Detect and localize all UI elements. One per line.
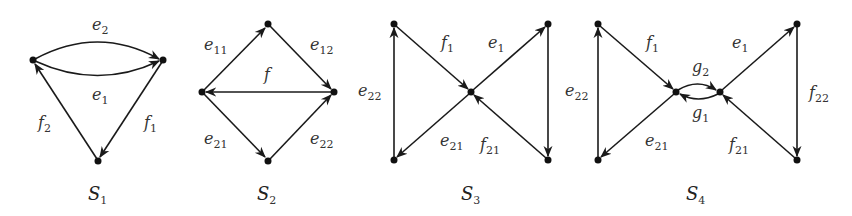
label-e22-left: e22 bbox=[358, 81, 381, 103]
label-e1: e1 bbox=[488, 33, 504, 55]
label-e22-right: e22 bbox=[565, 81, 588, 103]
label-f21: f21 bbox=[728, 135, 749, 157]
diagram-s1: e2 e1 f1 f2 S1 bbox=[30, 15, 167, 207]
label-f21: f21 bbox=[479, 135, 500, 157]
node bbox=[199, 89, 206, 96]
caption-s3: S3 bbox=[461, 183, 480, 207]
node bbox=[794, 21, 801, 28]
edge-f1 bbox=[396, 26, 468, 89]
graph-figure: e2 e1 f1 f2 S1 e11 e12 f e21 e22 S2 bbox=[0, 0, 852, 216]
edge-f2 bbox=[35, 64, 97, 159]
node bbox=[545, 157, 552, 164]
diagram-s4: f1 g2 g1 e1 f22 f21 e21 S4 bbox=[595, 21, 829, 208]
diagram-s3: f1 e1 e22 f21 e21 e22 S3 bbox=[358, 21, 588, 208]
diagram-s2: e11 e12 f e21 e22 S2 bbox=[199, 21, 338, 208]
label-f22: f22 bbox=[808, 83, 829, 105]
edge-f1 bbox=[600, 26, 673, 89]
edge-e1 bbox=[35, 61, 159, 76]
label-f1: f1 bbox=[440, 33, 454, 55]
node bbox=[160, 57, 167, 64]
edge-e2 bbox=[35, 42, 159, 59]
label-e1: e1 bbox=[92, 85, 108, 107]
label-e21: e21 bbox=[204, 129, 227, 151]
node bbox=[265, 21, 272, 28]
label-e12: e12 bbox=[310, 35, 333, 57]
label-e21: e21 bbox=[645, 131, 668, 153]
node bbox=[391, 21, 398, 28]
edge-e12 bbox=[270, 26, 331, 89]
node bbox=[331, 89, 338, 96]
label-f: f bbox=[263, 65, 273, 84]
node bbox=[30, 57, 37, 64]
edge-f1 bbox=[100, 62, 162, 157]
node bbox=[595, 21, 602, 28]
node bbox=[595, 157, 602, 164]
label-f2: f2 bbox=[37, 113, 51, 135]
label-e1: e1 bbox=[732, 33, 748, 55]
edge-e1 bbox=[473, 27, 545, 90]
label-f1: f1 bbox=[143, 113, 157, 135]
node bbox=[95, 158, 102, 165]
caption-s1: S1 bbox=[88, 183, 107, 207]
label-e22: e22 bbox=[310, 129, 333, 151]
edge-g2 bbox=[678, 84, 716, 90]
node bbox=[673, 89, 680, 96]
node bbox=[391, 157, 398, 164]
label-e2: e2 bbox=[92, 15, 108, 37]
label-e11: e11 bbox=[204, 35, 227, 57]
node bbox=[265, 158, 272, 165]
node bbox=[794, 157, 801, 164]
label-g1: g1 bbox=[692, 103, 709, 125]
label-f1: f1 bbox=[645, 33, 659, 55]
node bbox=[468, 89, 475, 96]
edge-g1 bbox=[680, 94, 718, 99]
node bbox=[717, 89, 724, 96]
caption-s2: S2 bbox=[257, 183, 276, 207]
node bbox=[545, 21, 552, 28]
label-e21: e21 bbox=[440, 131, 463, 153]
caption-s4: S4 bbox=[686, 183, 705, 207]
label-g2: g2 bbox=[692, 57, 709, 79]
